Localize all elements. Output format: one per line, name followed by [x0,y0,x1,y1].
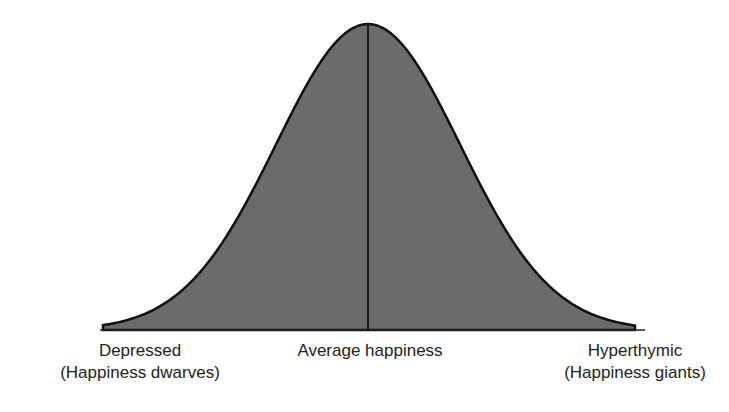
label-average: Average happiness [265,340,475,362]
label-hyperthymic-title: Hyperthymic [535,340,729,362]
label-hyperthymic: Hyperthymic (Happiness giants) [535,340,729,384]
label-depressed: Depressed (Happiness dwarves) [40,340,240,384]
label-depressed-title: Depressed [40,340,240,362]
label-average-title: Average happiness [265,340,475,362]
bell-curve-area [103,24,635,330]
label-depressed-subtitle: (Happiness dwarves) [40,362,240,384]
label-hyperthymic-subtitle: (Happiness giants) [535,362,729,384]
